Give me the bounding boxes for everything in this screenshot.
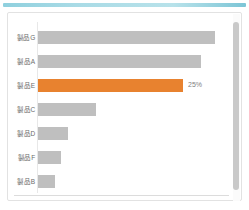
category-label: 製品C [8, 104, 35, 114]
category-label: 製品F [8, 152, 35, 162]
bar-segment[interactable] [38, 31, 215, 44]
bar-segment[interactable] [38, 151, 61, 164]
value-label: 25% [188, 81, 202, 88]
category-label: 製品D [8, 128, 35, 138]
chart-row[interactable]: 製品A [8, 49, 236, 73]
category-label: 製品E [8, 80, 35, 90]
bar-segment[interactable] [38, 103, 96, 116]
chart-row[interactable]: 製品B [8, 169, 236, 193]
chart-row[interactable]: 製品F [8, 145, 236, 169]
category-label: 製品B [8, 176, 35, 186]
chart-row[interactable]: 製品C [8, 97, 236, 121]
vertical-scrollbar-thumb[interactable] [233, 22, 239, 190]
bar-segment[interactable] [38, 55, 201, 68]
bar-segment-highlighted[interactable] [38, 79, 183, 92]
chart-row[interactable]: 製品G [8, 25, 236, 49]
bar-segment[interactable] [38, 127, 68, 140]
top-accent-bar [3, 3, 246, 7]
vertical-scrollbar-track[interactable] [233, 14, 240, 201]
chart-bottom-rule [14, 195, 229, 196]
chart-row-highlighted[interactable]: 製品E 25% [8, 73, 236, 97]
bar-chart: 製品G 製品A 製品E 25% 製品C [8, 13, 236, 201]
bar-segment[interactable] [38, 175, 55, 188]
category-label: 製品G [8, 32, 35, 42]
chart-row[interactable]: 製品D [8, 121, 236, 145]
category-label: 製品A [8, 56, 35, 66]
screenshot-root: 製品G 製品A 製品E 25% 製品C [0, 0, 249, 210]
chart-card: 製品G 製品A 製品E 25% 製品C [7, 12, 242, 201]
